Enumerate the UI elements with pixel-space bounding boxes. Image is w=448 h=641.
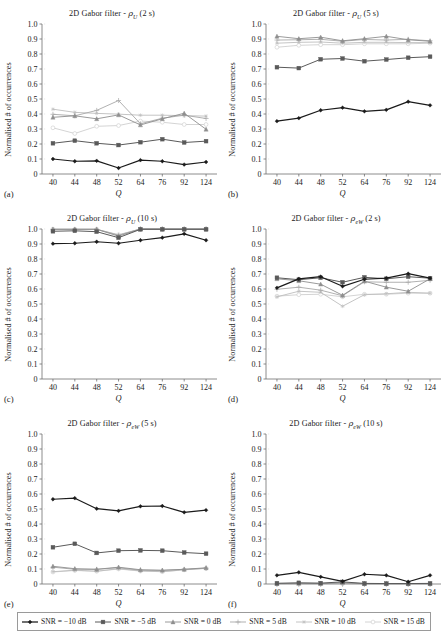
x-tick-label: 124 <box>200 178 212 187</box>
x-tick-label: 64 <box>360 178 368 187</box>
y-tick-label: 1.0 <box>252 225 262 234</box>
y-tick-label: 0.3 <box>252 125 262 134</box>
y-tick-label: 0.8 <box>28 255 38 264</box>
y-tick-label: 0.2 <box>28 140 38 149</box>
y-tick-label: 0.9 <box>252 35 262 44</box>
legend-marker-icon <box>295 617 313 627</box>
y-tick-label: 0.7 <box>252 65 262 74</box>
x-tick-label: 48 <box>317 178 325 187</box>
legend-item-3[interactable]: SNR = 5 dB <box>229 617 288 627</box>
panel-title-prefix: 2D Gabor filter - <box>67 214 126 223</box>
panel-title-prefix: 2D Gabor filter - <box>293 9 352 18</box>
y-tick-label: 0.9 <box>28 445 38 454</box>
x-tick-label: 44 <box>295 178 303 187</box>
legend-marker-icon <box>94 617 112 627</box>
x-tick-label: 124 <box>424 383 436 392</box>
chart-panel-f: 2D Gabor filter - ρeW (10 s)Normalised #… <box>224 410 448 610</box>
panel-title-suffix: (5 s) <box>361 9 378 18</box>
y-tick-label: 0.6 <box>28 80 38 89</box>
series-2 <box>51 111 208 131</box>
panel-title-suffix: (5 s) <box>139 419 156 428</box>
x-tick-label: 92 <box>404 178 412 187</box>
legend-item-0[interactable]: SNR = −10 dB <box>21 617 89 627</box>
y-tick-label: 1.0 <box>28 430 38 439</box>
x-tick-label: 44 <box>295 588 303 597</box>
x-axis-label-text: Q <box>339 599 345 608</box>
y-tick-label: 0.9 <box>28 35 38 44</box>
x-axis-label: Q <box>14 189 223 198</box>
x-tick-label: 48 <box>317 383 325 392</box>
y-tick-label: 0.4 <box>28 315 38 324</box>
series-0 <box>51 157 208 170</box>
x-tick-label: 40 <box>49 588 57 597</box>
panel-title-prefix: 2D Gabor filter - <box>291 214 350 223</box>
panel-title: 2D Gabor filter - ρU (2 s) <box>0 8 224 20</box>
y-tick-label: 0.8 <box>252 460 262 469</box>
y-tick-label: 0.5 <box>252 300 262 309</box>
plot-container: 00.10.20.30.40.50.60.70.80.91.0404448526… <box>238 20 447 188</box>
x-tick-label: 76 <box>382 383 390 392</box>
chart-panel-a: 2D Gabor filter - ρU (2 s)Normalised # o… <box>0 0 224 205</box>
y-tick-label: 0.3 <box>28 125 38 134</box>
x-tick-label: 124 <box>200 588 212 597</box>
x-tick-label: 92 <box>180 178 188 187</box>
x-tick-label: 64 <box>360 588 368 597</box>
legend-item-4[interactable]: SNR = 10 dB <box>295 617 358 627</box>
legend-marker-icon <box>21 617 39 627</box>
y-tick-label: 0.1 <box>252 360 262 369</box>
legend-label: SNR = 15 dB <box>383 617 427 626</box>
legend-label: SNR = −5 dB <box>113 617 158 626</box>
y-axis-label-text: Normalised # of occurrences <box>4 472 13 566</box>
legend-item-1[interactable]: SNR = −5 dB <box>94 617 158 627</box>
y-tick-label: 0 <box>34 375 38 384</box>
x-tick-label: 76 <box>158 178 166 187</box>
y-tick-label: 0 <box>258 375 262 384</box>
series-1 <box>275 55 432 70</box>
x-axis-label: Q <box>238 394 447 403</box>
legend-item-5[interactable]: SNR = 15 dB <box>364 617 427 627</box>
panel-title-prefix: 2D Gabor filter - <box>289 419 348 428</box>
panel-title: 2D Gabor filter - ρU (10 s) <box>0 213 224 225</box>
y-tick-label: 0.4 <box>252 110 262 119</box>
y-tick-label: 0 <box>258 580 262 589</box>
y-tick-label: 0.6 <box>252 80 262 89</box>
x-tick-label: 52 <box>115 588 123 597</box>
plot-area: 00.10.20.30.40.50.60.70.80.91.0404448526… <box>238 20 447 188</box>
y-tick-label: 0.8 <box>252 255 262 264</box>
series-1 <box>51 542 208 556</box>
y-tick-label: 0 <box>34 580 38 589</box>
plot-area: 00.10.20.30.40.50.60.70.80.91.0404448526… <box>14 20 223 188</box>
y-axis-label: Normalised # of occurrences <box>226 227 238 402</box>
y-tick-label: 1.0 <box>252 20 262 29</box>
y-tick-label: 0.9 <box>252 445 262 454</box>
legend-item-2[interactable]: SNR = 0 dB <box>164 617 223 627</box>
panel-title: 2D Gabor filter - ρeW (10 s) <box>224 418 448 430</box>
x-tick-label: 92 <box>404 383 412 392</box>
series-0 <box>51 496 208 514</box>
y-tick-label: 1.0 <box>252 430 262 439</box>
x-axis-label-text: Q <box>115 189 121 198</box>
y-tick-label: 0.3 <box>28 330 38 339</box>
panel-title-subscript: eW <box>353 424 361 430</box>
x-tick-label: 124 <box>424 178 436 187</box>
y-tick-label: 0.8 <box>252 50 262 59</box>
legend-label: SNR = 10 dB <box>314 617 358 626</box>
chart-legend: SNR = −10 dBSNR = −5 dBSNR = 0 dBSNR = 5… <box>17 612 431 631</box>
y-tick-label: 0.2 <box>252 550 262 559</box>
y-tick-label: 0.7 <box>252 475 262 484</box>
y-axis-label-text: Normalised # of occurrences <box>4 267 13 361</box>
panel-title: 2D Gabor filter - ρU (5 s) <box>224 8 448 20</box>
plot-container: 00.10.20.30.40.50.60.70.80.91.0404448526… <box>14 225 223 393</box>
x-axis-label-text: Q <box>115 394 121 403</box>
y-tick-label: 0.2 <box>28 550 38 559</box>
chart-panel-d: 2D Gabor filter - ρeW (2 s)Normalised # … <box>224 205 448 410</box>
y-tick-label: 0.2 <box>28 345 38 354</box>
x-tick-label: 64 <box>136 383 144 392</box>
panel-title-suffix: (2 s) <box>137 9 154 18</box>
panel-title: 2D Gabor filter - ρeW (5 s) <box>0 418 224 430</box>
y-tick-label: 0.6 <box>252 490 262 499</box>
figure-root: 2D Gabor filter - ρU (2 s)Normalised # o… <box>0 0 448 641</box>
panel-letter: (c) <box>4 394 14 404</box>
plot-area: 00.10.20.30.40.50.60.70.80.91.0404448526… <box>238 225 447 393</box>
x-tick-label: 76 <box>158 383 166 392</box>
